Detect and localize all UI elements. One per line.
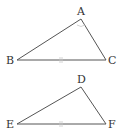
triangle-def: D E F: [6, 73, 116, 131]
vertex-label-a: A: [76, 5, 86, 18]
vertex-label-c: C: [108, 54, 116, 67]
vertex-label-d: D: [77, 73, 86, 86]
side-ab: [17, 19, 81, 60]
angle-mark-a: [77, 25, 85, 27]
vertex-label-e: E: [6, 118, 14, 131]
vertex-label-f: F: [108, 118, 116, 131]
vertex-label-b: B: [6, 54, 14, 67]
side-de: [17, 87, 81, 124]
triangles-diagram: A B C D E F: [0, 0, 124, 139]
triangle-abc: A B C: [6, 5, 116, 67]
side-df: [81, 87, 106, 124]
